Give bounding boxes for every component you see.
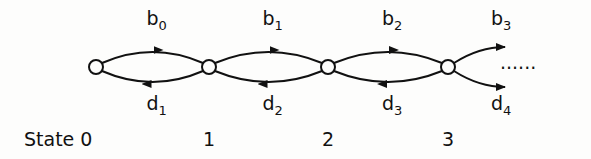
state-label-3: 3: [442, 128, 454, 150]
state-label-2: 2: [322, 128, 334, 150]
state-label-1: 1: [203, 128, 215, 150]
label-d1: d1: [147, 92, 167, 118]
label-b2: b2: [382, 7, 402, 33]
label-d3: d3: [382, 92, 402, 118]
backward-arc-d4: [454, 71, 505, 87]
label-d2: d2: [263, 92, 283, 118]
forward-arc-b2: [334, 52, 442, 63]
forward-arc-b3: [454, 47, 505, 63]
backward-arc-d1: [102, 71, 203, 82]
state-node-1: [202, 60, 216, 74]
state-label-0: State 0: [24, 128, 92, 150]
label-b3: b3: [491, 7, 511, 33]
state-node-0: [89, 60, 103, 74]
forward-arc-b1: [215, 52, 322, 63]
continuation-ellipsis: ......: [500, 51, 536, 73]
forward-arc-b0: [102, 52, 203, 63]
label-d4: d4: [491, 92, 511, 118]
state-node-2: [321, 60, 335, 74]
label-b0: b0: [147, 7, 167, 33]
backward-arc-d2: [215, 71, 322, 82]
backward-arc-d3: [334, 71, 442, 82]
label-b1: b1: [263, 7, 283, 33]
state-node-3: [441, 60, 455, 74]
birth-death-diagram: State 0123b0b1b2b3d1d2d3d4 ......: [0, 0, 591, 159]
